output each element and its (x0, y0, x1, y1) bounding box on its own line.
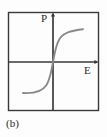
x-axis-label: E (84, 65, 91, 76)
figure-caption: (b) (6, 117, 19, 129)
figure-panel: P E (b) (0, 0, 107, 137)
y-axis-label: P (41, 13, 47, 24)
